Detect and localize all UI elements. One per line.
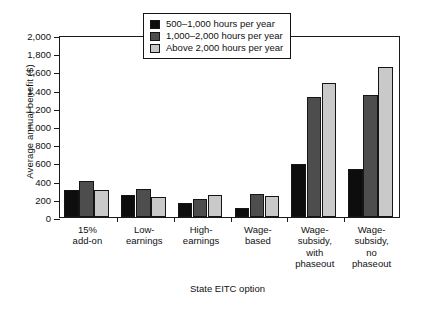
- y-axis-tick-label: 400: [9, 178, 51, 188]
- bar: [64, 190, 79, 217]
- y-axis-tick-label: 1,400: [9, 87, 51, 97]
- y-axis-tick: [54, 201, 60, 202]
- y-axis-tick: [54, 92, 60, 93]
- y-axis-tick: [54, 73, 60, 74]
- legend-swatch-icon: [150, 44, 160, 53]
- y-axis-tick-label: 1,200: [9, 105, 51, 115]
- bar: [79, 181, 94, 217]
- bar: [291, 164, 306, 217]
- bar: [307, 97, 322, 217]
- bar: [193, 199, 208, 217]
- y-axis-tick: [54, 146, 60, 147]
- bar: [121, 195, 136, 217]
- legend-item: 1,000–2,000 hours per year: [150, 30, 283, 42]
- bar: [250, 194, 265, 217]
- bar: [94, 190, 109, 217]
- bar: [178, 203, 193, 217]
- x-axis-category-label: Wage- based: [230, 224, 287, 247]
- y-axis-tick-label: 200: [9, 196, 51, 206]
- x-axis-category-label: High- earnings: [173, 224, 230, 247]
- y-axis-tick-label: 1,000: [9, 123, 51, 133]
- y-axis-tick: [54, 183, 60, 184]
- y-axis-tick: [54, 128, 60, 129]
- y-axis-tick-label: 1,600: [9, 69, 51, 79]
- x-axis-tick: [117, 217, 118, 222]
- y-axis-tick-label: 1,800: [9, 50, 51, 60]
- x-axis-category-label: Wage- subsidy, with phaseout: [286, 224, 343, 270]
- plot-inner: 02004006008001,0001,2001,4001,6001,8002,…: [60, 37, 399, 217]
- x-axis-category-label: Wage- subsidy, no phaseout: [343, 224, 400, 270]
- y-axis-tick-label: 2,000: [9, 32, 51, 42]
- x-axis-title: State EITC option: [55, 283, 400, 294]
- y-axis-tick: [54, 164, 60, 165]
- chart-legend: 500–1,000 hours per year1,000–2,000 hour…: [143, 13, 291, 59]
- x-axis-category-label: 15% add-on: [59, 224, 116, 247]
- y-axis-tick: [54, 219, 60, 220]
- plot-area: 02004006008001,0001,2001,4001,6001,8002,…: [59, 36, 400, 218]
- y-axis-tick-label: 800: [9, 141, 51, 151]
- y-axis-tick: [54, 110, 60, 111]
- bar: [136, 189, 151, 217]
- legend-swatch-icon: [150, 20, 160, 29]
- y-axis-tick-label: 0: [9, 214, 51, 224]
- y-axis-tick: [54, 55, 60, 56]
- x-axis-tick: [287, 217, 288, 222]
- x-axis-category-label: Low- earnings: [116, 224, 173, 247]
- legend-item: 500–1,000 hours per year: [150, 18, 283, 30]
- legend-label: 500–1,000 hours per year: [166, 19, 275, 29]
- x-axis-tick: [174, 217, 175, 222]
- bar: [378, 67, 393, 217]
- bar: [265, 196, 280, 217]
- y-axis-tick: [54, 37, 60, 38]
- y-axis-tick-label: 600: [9, 160, 51, 170]
- legend-item: Above 2,000 hours per year: [150, 42, 283, 54]
- x-axis-tick: [344, 217, 345, 222]
- legend-label: Above 2,000 hours per year: [166, 43, 283, 53]
- chart-figure: Average annual benefit ($) State EITC op…: [0, 0, 423, 309]
- bar: [348, 169, 363, 217]
- bar: [208, 195, 223, 217]
- bar: [363, 95, 378, 217]
- legend-swatch-icon: [150, 32, 160, 41]
- bar: [235, 208, 250, 217]
- bar: [322, 83, 337, 217]
- bar: [151, 197, 166, 217]
- x-axis-tick: [231, 217, 232, 222]
- legend-label: 1,000–2,000 hours per year: [166, 31, 283, 41]
